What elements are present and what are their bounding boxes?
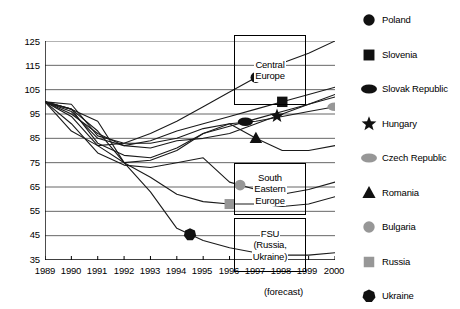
series-marker-czech-republic	[327, 102, 335, 111]
legend-item-hungary[interactable]: Hungary	[360, 116, 417, 132]
series-marker-romania	[250, 132, 263, 143]
legend-marker-star-icon	[360, 116, 382, 132]
annotation-central-europe-line1: Central	[254, 59, 285, 71]
legend-label: Poland	[382, 15, 411, 25]
legend-item-poland[interactable]: Poland	[360, 12, 411, 28]
annotation-south-eastern-europe-line2: Eastern	[253, 183, 286, 195]
y-tick-65: 65	[14, 182, 40, 192]
legend-item-russia[interactable]: Russia	[360, 254, 410, 270]
y-tick-105: 105	[14, 85, 40, 95]
y-tick-75: 75	[14, 158, 40, 168]
legend-label: Czech Republic	[382, 153, 446, 163]
y-tick-125: 125	[14, 37, 40, 47]
legend-label: Romania	[382, 188, 419, 198]
legend-marker-square-icon	[360, 47, 382, 63]
y-tick-95: 95	[14, 109, 40, 119]
plot-area: Central Europe South Eastern Europe FSU …	[45, 41, 335, 260]
legend-marker-circle-gray-icon	[360, 219, 382, 235]
legend-label: Bulgaria	[382, 222, 416, 232]
legend-item-czech-republic[interactable]: Czech Republic	[360, 150, 446, 166]
legend-marker-oval-icon	[360, 81, 382, 97]
y-tick-45: 45	[14, 230, 40, 240]
chart-root: 125 115 105 95 85 75 65 55 45 35 Central…	[0, 0, 460, 309]
y-tick-55: 55	[14, 206, 40, 216]
legend-label: Slovenia	[382, 50, 417, 60]
series-marker-hungary	[270, 109, 284, 122]
series-marker-slovak-republic	[238, 117, 253, 126]
annotation-fsu-line2: (Russia,	[252, 239, 287, 251]
y-tick-85: 85	[14, 133, 40, 143]
y-axis-labels: 125 115 105 95 85 75 65 55 45 35	[12, 0, 40, 309]
legend-marker-heptagon-icon	[360, 288, 382, 304]
annotation-south-eastern-europe: South Eastern Europe	[234, 163, 306, 215]
annotation-central-europe: Central Europe	[234, 35, 306, 105]
legend-label: Hungary	[382, 119, 417, 129]
forecast-note: (forecast)	[264, 287, 303, 297]
legend-label: Ukraine	[382, 291, 414, 301]
series-marker-ukraine	[184, 228, 196, 240]
legend-label: Russia	[382, 257, 410, 267]
annotation-central-europe-line2: Europe	[254, 70, 285, 82]
annotation-fsu-line3: Ukraine)	[252, 251, 288, 263]
legend-item-slovenia[interactable]: Slovenia	[360, 47, 417, 63]
x-tick-2000: 2000	[317, 266, 351, 276]
annotation-fsu-line1: FSU	[260, 228, 280, 240]
legend: PolandSloveniaSlovak RepublicHungaryCzec…	[360, 8, 460, 303]
legend-item-slovak-republic[interactable]: Slovak Republic	[360, 81, 448, 97]
annotation-fsu: FSU (Russia, Ukraine)	[234, 218, 306, 272]
legend-item-ukraine[interactable]: Ukraine	[360, 288, 414, 304]
annotation-south-eastern-europe-line1: South	[257, 172, 283, 184]
legend-item-romania[interactable]: Romania	[360, 185, 419, 201]
legend-marker-triangle-icon	[360, 185, 382, 201]
legend-marker-circle-icon	[360, 12, 382, 28]
legend-label: Slovak Republic	[382, 84, 448, 94]
legend-item-bulgaria[interactable]: Bulgaria	[360, 219, 416, 235]
y-tick-35: 35	[14, 255, 40, 265]
y-tick-115: 115	[14, 61, 40, 71]
annotation-south-eastern-europe-line3: Europe	[254, 195, 285, 207]
legend-marker-square-gray-icon	[360, 254, 382, 270]
legend-marker-oval-gray-icon	[360, 150, 382, 166]
